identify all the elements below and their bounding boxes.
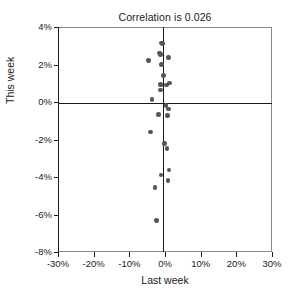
- x-axis-title: Last week: [58, 274, 272, 286]
- data-point: [165, 113, 170, 118]
- scatter-chart: Correlation is 0.026 4%2%0%-2%-4%-6%-8% …: [0, 0, 293, 296]
- data-point: [150, 97, 155, 102]
- data-point: [146, 58, 151, 63]
- data-point: [148, 130, 153, 135]
- data-points-layer: [0, 0, 293, 296]
- data-point: [158, 88, 163, 93]
- data-point: [159, 173, 164, 178]
- data-point: [166, 178, 171, 183]
- data-point: [164, 83, 169, 88]
- data-point: [160, 41, 165, 46]
- data-point: [156, 112, 161, 117]
- data-point: [159, 62, 164, 67]
- data-point: [166, 107, 171, 112]
- data-point: [154, 218, 159, 223]
- data-point: [167, 168, 172, 173]
- data-point: [158, 52, 163, 57]
- data-point: [166, 55, 171, 60]
- y-axis-title: This week: [4, 57, 16, 104]
- data-point: [153, 185, 158, 190]
- data-point: [159, 83, 164, 88]
- data-point: [165, 146, 170, 151]
- data-point: [161, 73, 166, 78]
